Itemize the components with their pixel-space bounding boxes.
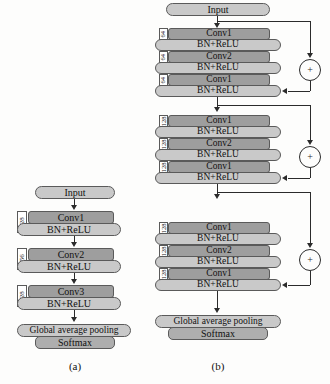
panel-a-bn2-box: BN+ReLU — [17, 260, 121, 273]
panel-b-skip-2-arrow — [307, 140, 313, 145]
panel-b-adder-3-out-arrow — [282, 282, 287, 288]
panel-b-softmax-box: Softmax — [168, 327, 268, 340]
panel-b-adder-1-out-left — [288, 91, 310, 92]
panel-b-adder-2-out-left — [288, 178, 310, 179]
panel-b-skip-3-down — [310, 192, 311, 245]
panel-b-block1-bn1-box: BN+ReLU — [155, 39, 281, 51]
panel-b-block2-out-arrow — [214, 194, 220, 199]
panel-b-adder-1-out-arrow — [282, 88, 287, 94]
panel-b-skip-1-top — [217, 21, 310, 22]
panel-a-bn1-label: BN+ReLU — [47, 225, 91, 235]
panel-b-softmax-label: Softmax — [201, 329, 235, 339]
panel-b-block1-bn3-box: BN+ReLU — [155, 85, 281, 97]
panel-b-adder-3: + — [299, 249, 321, 271]
panel-a-arrow-head-4 — [71, 317, 77, 322]
panel-b-block3-bn2-box: BN+ReLU — [155, 256, 281, 268]
panel-b-block3-out-arrow — [214, 308, 220, 313]
panel-a-arrow-head-2 — [71, 242, 77, 247]
panel-a-conv1-label: Conv1 — [58, 213, 85, 223]
panel-b-adder-1: + — [299, 59, 321, 81]
panel-a-arrow-head-3 — [71, 279, 77, 284]
panel-a-conv3-label: Conv3 — [58, 287, 85, 297]
panel-b-adder-2: + — [299, 146, 321, 168]
panel-b-input-label: Input — [207, 5, 228, 15]
panel-a-input-label: Input — [64, 188, 85, 198]
panel-b-adder-3-out-down — [310, 271, 311, 285]
panel-b-skip-3-top — [217, 192, 310, 193]
panel-a-softmax-label: Softmax — [58, 338, 92, 348]
panel-a-bn3-label: BN+ReLU — [47, 299, 91, 309]
panel-a-bn3-box: BN+ReLU — [17, 297, 121, 310]
panel-b-block3-bn3-box: BN+ReLU — [155, 279, 281, 291]
panel-b-skip-3-arrow — [307, 243, 313, 248]
panel-b-gap-label: Global average pooling — [173, 317, 262, 327]
panel-a-gap-label: Global average pooling — [29, 326, 118, 336]
panel-b-skip-1-arrow — [307, 53, 313, 58]
panel-b-adder-1-out-down — [310, 81, 311, 91]
panel-b-skip-2-down — [310, 105, 311, 142]
panel-a-arrow-head-1 — [71, 205, 77, 210]
panel-b-skip-1-down — [310, 21, 311, 55]
panel-b-block2-bn2-box: BN+ReLU — [155, 149, 281, 161]
panel-b-adder-2-out-arrow — [282, 175, 287, 181]
panel-a-conv2-label: Conv2 — [58, 250, 85, 260]
panel-a-softmax-box: Softmax — [35, 336, 115, 349]
figure-root: Input 128 Conv1 BN+ReLU 256 Conv2 BN+ReL… — [0, 0, 330, 384]
panel-a-bn2-label: BN+ReLU — [47, 262, 91, 272]
panel-b-block3-bn1-box: BN+ReLU — [155, 233, 281, 245]
panel-b-block1-bn2-box: BN+ReLU — [155, 62, 281, 74]
panel-b-block2-bn3-box: BN+ReLU — [155, 172, 281, 184]
panel-b-caption: (b) — [180, 360, 256, 372]
panel-b-adder-3-out-left — [288, 285, 310, 286]
panel-b-adder-2-out-down — [310, 168, 311, 178]
panel-b-skip-2-top — [217, 105, 310, 106]
panel-a-bn1-box: BN+ReLU — [17, 223, 121, 236]
panel-b-block2-bn1-box: BN+ReLU — [155, 126, 281, 138]
panel-a-input-box: Input — [35, 186, 115, 199]
panel-b-input-box: Input — [166, 3, 270, 16]
panel-a-caption: (a) — [37, 360, 113, 372]
panel-b-block1-out-arrow — [214, 107, 220, 112]
